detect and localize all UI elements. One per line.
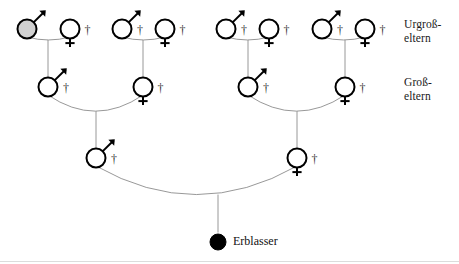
deceased-dagger-icon: †: [337, 23, 343, 37]
union-arc-union-gp-left: [48, 95, 143, 111]
male-circle-icon: [113, 20, 132, 39]
deceased-dagger-icon: †: [158, 81, 164, 95]
person-erblasser[interactable]: [210, 234, 226, 250]
deceased-dagger-icon: †: [263, 81, 269, 95]
deceased-dagger-icon: †: [380, 23, 386, 37]
person-parent-mother[interactable]: †: [288, 149, 318, 177]
person-ggp-2-f[interactable]: †: [156, 20, 186, 48]
person-ggp-1-m[interactable]: [18, 10, 46, 38]
person-ggp-2-m[interactable]: †: [113, 10, 144, 38]
person-ggp-3-f[interactable]: †: [260, 20, 290, 48]
male-circle-icon: [217, 20, 236, 39]
genealogy-diagram: ††††††††††††† Urgroß- eltern Groß- elter…: [0, 0, 459, 264]
male-circle-icon: [18, 20, 37, 39]
union-arc-union-ggp-3: [226, 37, 269, 40]
deceased-dagger-icon: †: [360, 81, 366, 95]
deceased-dagger-icon: †: [241, 23, 247, 37]
deceased-dagger-icon: †: [284, 23, 290, 37]
union-arc-union-ggp-2: [122, 37, 165, 40]
deceased-dagger-icon: †: [312, 152, 318, 166]
generation-label-grandparents: Groß- eltern: [404, 76, 432, 103]
person-gp-4-f[interactable]: †: [336, 78, 366, 106]
person-ggp-1-f[interactable]: †: [61, 20, 91, 48]
female-circle-icon: [288, 149, 307, 168]
person-ggp-4-f[interactable]: †: [356, 20, 386, 48]
deceased-dagger-icon: †: [180, 23, 186, 37]
person-gp-2-f[interactable]: †: [134, 78, 164, 106]
person-gp-3-m[interactable]: †: [239, 68, 270, 96]
male-circle-icon: [87, 149, 106, 168]
generation-label-great-grandparents: Urgroß- eltern: [404, 18, 442, 45]
person-parent-father[interactable]: †: [87, 139, 118, 167]
male-circle-icon: [39, 78, 58, 97]
bottom-divider: [0, 261, 459, 262]
erblasser-filled-circle-icon: [210, 234, 226, 250]
female-circle-icon: [336, 78, 355, 97]
female-circle-icon: [61, 20, 80, 39]
female-circle-icon: [356, 20, 375, 39]
union-arc-union-ggp-4: [322, 37, 365, 40]
union-arc-union-gp-right: [248, 95, 345, 111]
female-circle-icon: [134, 78, 153, 97]
male-circle-icon: [239, 78, 258, 97]
female-circle-icon: [156, 20, 175, 39]
deceased-dagger-icon: †: [137, 23, 143, 37]
male-circle-icon: [313, 20, 332, 39]
union-arc-union-ggp-1: [27, 37, 70, 40]
female-circle-icon: [260, 20, 279, 39]
union-arc-union-parents: [96, 166, 297, 195]
deceased-dagger-icon: †: [85, 23, 91, 37]
deceased-dagger-icon: †: [63, 81, 69, 95]
person-gp-1-m[interactable]: †: [39, 68, 70, 96]
erblasser-label: Erblasser: [233, 235, 278, 248]
pedigree-canvas: †††††††††††††: [0, 0, 459, 264]
person-ggp-4-m[interactable]: †: [313, 10, 344, 38]
connector-lines: [27, 37, 365, 233]
deceased-dagger-icon: †: [111, 152, 117, 166]
person-ggp-3-m[interactable]: †: [217, 10, 248, 38]
